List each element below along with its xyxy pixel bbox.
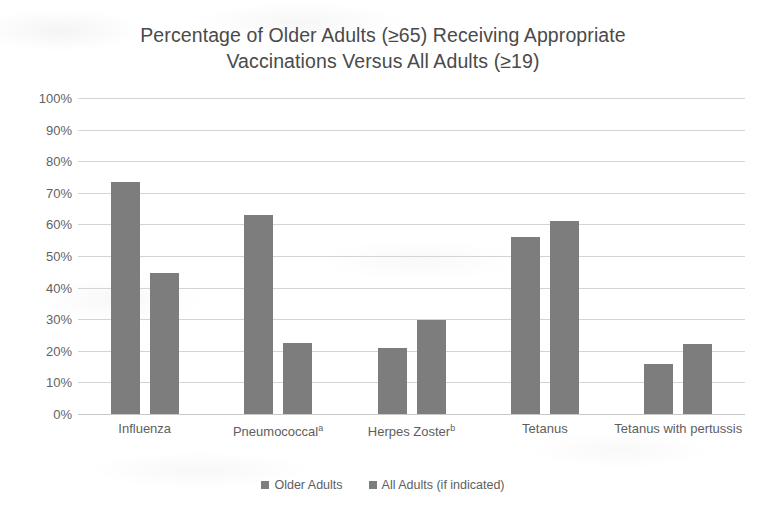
legend-item-label: Older Adults [274,478,342,492]
x-axis-category-text: Tetanus [522,421,568,436]
y-axis-tick-label: 80% [8,154,72,169]
bar-chart: Percentage of Older Adults (≥65) Receivi… [0,0,766,515]
gridline-90 [78,130,745,131]
y-axis: 100%90%80%70%60%50%40%30%20%10%0% [0,98,72,414]
legend-swatch-icon [369,481,377,489]
x-axis-category-label: Tetanus [478,420,611,437]
footnote-marker-b: b [450,423,455,433]
bar [283,343,312,414]
x-axis-category-label: Herpes Zosterb [345,420,478,440]
bar [150,273,179,414]
x-axis-category-label: Influenza [78,420,211,437]
x-axis-category-text: Tetanus with pertussis [614,421,742,436]
bar [111,182,140,414]
y-axis-tick-label: 70% [8,185,72,200]
bar [683,344,712,414]
x-axis-category-label: Tetanus with pertussis [612,420,745,437]
bar [378,348,407,414]
y-axis-tick-label: 40% [8,280,72,295]
y-axis-tick-label: 10% [8,375,72,390]
gridline-0 [78,414,745,415]
x-axis-category-text: Pneumococcal [233,424,318,439]
legend-item-label: All Adults (if indicated) [382,478,505,492]
gridline-70 [78,193,745,194]
gridline-50 [78,256,745,257]
y-axis-tick-label: 90% [8,122,72,137]
gridline-80 [78,161,745,162]
plot-area [78,98,745,414]
x-axis-labels: InfluenzaPneumococcalaHerpes ZosterbTeta… [78,420,745,472]
bar [244,215,273,414]
bar [644,364,673,414]
x-axis-category-label: Pneumococcala [211,420,344,440]
y-axis-tick-label: 0% [8,407,72,422]
y-axis-tick-label: 50% [8,249,72,264]
legend-item[interactable]: All Adults (if indicated) [369,478,505,492]
legend-swatch-icon [261,481,269,489]
y-axis-tick-label: 100% [8,91,72,106]
y-axis-tick-label: 30% [8,312,72,327]
footnote-marker-a: a [318,423,323,433]
legend-item[interactable]: Older Adults [261,478,342,492]
x-axis-category-text: Influenza [118,421,171,436]
chart-title-line-2: Vaccinations Versus All Adults (≥19) [60,48,706,74]
bar [550,221,579,414]
y-axis-tick-label: 20% [8,343,72,358]
bar [511,237,540,414]
gridline-60 [78,224,745,225]
y-axis-tick-label: 60% [8,217,72,232]
gridline-100 [78,98,745,99]
chart-legend: Older AdultsAll Adults (if indicated) [0,478,766,492]
bar [417,320,446,414]
x-axis-category-text: Herpes Zoster [368,424,450,439]
chart-title-line-1: Percentage of Older Adults (≥65) Receivi… [140,24,625,46]
chart-title: Percentage of Older Adults (≥65) Receivi… [60,22,706,74]
